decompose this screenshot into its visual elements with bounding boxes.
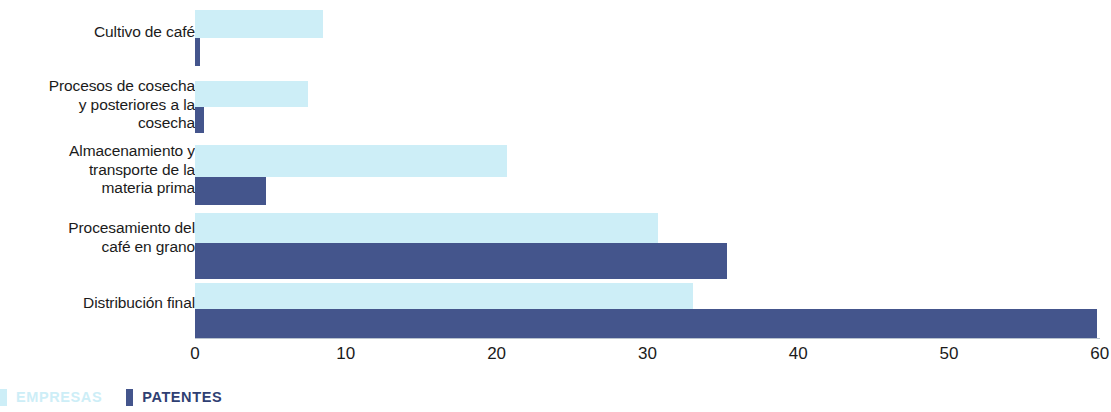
bar-empresas [195, 213, 658, 243]
x-tick-label: 50 [940, 344, 959, 364]
category-label: Procesamiento del café en grano [0, 219, 195, 256]
category-label: Distribución final [0, 294, 195, 313]
chart-legend: EMPRESAS PATENTES [0, 386, 222, 408]
chart-category-group: Distribución final [0, 283, 1111, 339]
x-axis-line [195, 338, 1100, 339]
chart-figure: Cultivo de caféProcesos de cosecha y pos… [0, 0, 1111, 412]
chart-category-group: Almacenamiento y transporte de la materi… [0, 145, 1111, 205]
chart-category-group: Procesamiento del café en grano [0, 213, 1111, 279]
bar-empresas [195, 81, 308, 107]
x-tick-label: 20 [487, 344, 506, 364]
bar-patentes [195, 107, 204, 133]
legend-item-empresas: EMPRESAS [0, 386, 102, 408]
legend-label-patentes: PATENTES [142, 389, 222, 405]
bar-empresas [195, 145, 507, 177]
x-tick-label: 60 [1090, 344, 1109, 364]
x-tick-label: 40 [789, 344, 808, 364]
legend-item-patentes: PATENTES [126, 386, 222, 408]
bar-patentes [195, 243, 727, 279]
bar-empresas [195, 10, 323, 38]
bar-patentes [195, 309, 1097, 339]
chart-category-group: Procesos de cosecha y posteriores a la c… [0, 81, 1111, 133]
x-tick-label: 30 [638, 344, 657, 364]
x-tick-label: 0 [190, 344, 199, 364]
category-label: Procesos de cosecha y posteriores a la c… [0, 77, 195, 133]
legend-swatch-empresas [0, 389, 7, 406]
bar-patentes [195, 177, 266, 205]
bar-patentes [195, 38, 200, 66]
legend-swatch-patentes [126, 389, 133, 406]
category-label: Almacenamiento y transporte de la materi… [0, 142, 195, 198]
chart-category-group: Cultivo de café [0, 10, 1111, 66]
bar-empresas [195, 283, 693, 309]
legend-label-empresas: EMPRESAS [16, 389, 102, 405]
x-tick-label: 10 [336, 344, 355, 364]
x-axis-tick-labels: 0102030405060 [0, 344, 1111, 368]
plot-area: Cultivo de caféProcesos de cosecha y pos… [0, 0, 1111, 340]
category-label: Cultivo de café [0, 23, 195, 42]
